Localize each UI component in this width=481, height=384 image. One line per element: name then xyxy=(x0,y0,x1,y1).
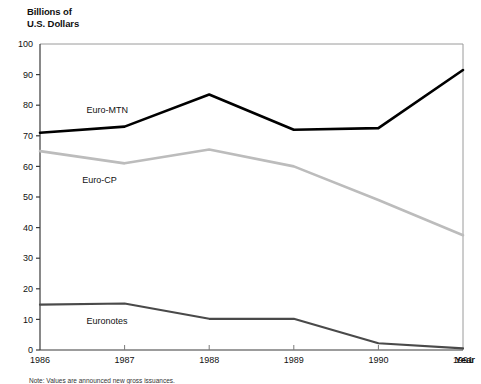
x-axis-title: Year xyxy=(455,354,475,365)
y-axis-tick-label: 100 xyxy=(18,39,33,49)
y-axis-tick-label: 20 xyxy=(23,284,33,294)
y-axis-tick-label: 30 xyxy=(23,253,33,263)
x-axis-tick-label: 1988 xyxy=(199,355,219,365)
y-axis-tick-label: 40 xyxy=(23,223,33,233)
x-axis-tick-label: 1990 xyxy=(368,355,388,365)
series-label-euro-cp: Euro-CP xyxy=(82,175,117,185)
y-axis-tick-label: 80 xyxy=(23,100,33,110)
y-axis-tick-label: 60 xyxy=(23,162,33,172)
series-line-euronotes xyxy=(40,303,463,348)
x-axis-tick-label: 1987 xyxy=(115,355,135,365)
y-axis-tick-label: 70 xyxy=(23,131,33,141)
series-line-euro-mtn xyxy=(40,70,463,133)
x-axis-tick-label: 1989 xyxy=(284,355,304,365)
series-label-euronotes: Euronotes xyxy=(87,316,129,326)
y-axis-tick-label: 90 xyxy=(23,70,33,80)
chart-note: Note: Values are announced new gross iss… xyxy=(29,377,175,384)
y-axis-tick-label: 10 xyxy=(23,315,33,325)
y-axis-tick-label: 0 xyxy=(28,345,33,355)
x-axis-tick-label: 1986 xyxy=(30,355,50,365)
series-line-euro-cp xyxy=(40,150,463,236)
y-axis-tick-label: 50 xyxy=(23,192,33,202)
series-label-euro-mtn: Euro-MTN xyxy=(87,105,129,115)
